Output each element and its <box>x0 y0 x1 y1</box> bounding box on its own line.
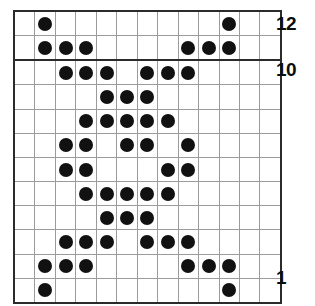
chart-cell-r4-c1[interactable] <box>14 206 35 230</box>
chart-cell-r1-c7[interactable] <box>137 278 157 303</box>
chart-cell-r12-c9[interactable] <box>178 11 198 36</box>
chart-cell-r8-c8[interactable] <box>158 109 178 133</box>
chart-cell-r3-c11[interactable] <box>219 230 239 254</box>
chart-cell-r6-c2[interactable] <box>35 157 55 181</box>
chart-cell-r6-c4[interactable] <box>76 157 96 181</box>
chart-cell-r12-c11[interactable] <box>219 11 239 36</box>
chart-cell-r11-c13[interactable] <box>260 36 281 61</box>
chart-cell-r2-c5[interactable] <box>96 254 116 278</box>
chart-cell-r10-c6[interactable] <box>117 60 137 85</box>
chart-cell-r1-c6[interactable] <box>117 278 137 303</box>
chart-cell-r9-c13[interactable] <box>260 85 281 109</box>
chart-cell-r1-c10[interactable] <box>199 278 219 303</box>
chart-cell-r12-c1[interactable] <box>14 11 35 36</box>
chart-cell-r10-c9[interactable] <box>178 60 198 85</box>
chart-cell-r1-c2[interactable] <box>35 278 55 303</box>
chart-cell-r10-c2[interactable] <box>35 60 55 85</box>
chart-cell-r5-c3[interactable] <box>55 182 75 206</box>
chart-cell-r5-c11[interactable] <box>219 182 239 206</box>
chart-cell-r3-c5[interactable] <box>96 230 116 254</box>
chart-cell-r11-c2[interactable] <box>35 36 55 61</box>
chart-cell-r10-c3[interactable] <box>55 60 75 85</box>
chart-cell-r6-c5[interactable] <box>96 157 116 181</box>
chart-cell-r2-c6[interactable] <box>117 254 137 278</box>
chart-cell-r2-c12[interactable] <box>239 254 259 278</box>
chart-cell-r9-c12[interactable] <box>239 85 259 109</box>
chart-cell-r9-c2[interactable] <box>35 85 55 109</box>
chart-cell-r5-c10[interactable] <box>199 182 219 206</box>
chart-cell-r5-c6[interactable] <box>117 182 137 206</box>
chart-cell-r8-c13[interactable] <box>260 109 281 133</box>
chart-cell-r9-c10[interactable] <box>199 85 219 109</box>
chart-cell-r5-c7[interactable] <box>137 182 157 206</box>
chart-cell-r7-c10[interactable] <box>199 133 219 157</box>
chart-cell-r8-c11[interactable] <box>219 109 239 133</box>
chart-cell-r2-c9[interactable] <box>178 254 198 278</box>
chart-cell-r6-c8[interactable] <box>158 157 178 181</box>
chart-cell-r8-c7[interactable] <box>137 109 157 133</box>
chart-cell-r1-c1[interactable] <box>14 278 35 303</box>
chart-cell-r7-c13[interactable] <box>260 133 281 157</box>
chart-cell-r3-c4[interactable] <box>76 230 96 254</box>
chart-cell-r9-c7[interactable] <box>137 85 157 109</box>
chart-cell-r10-c4[interactable] <box>76 60 96 85</box>
chart-cell-r9-c3[interactable] <box>55 85 75 109</box>
chart-cell-r5-c2[interactable] <box>35 182 55 206</box>
chart-cell-r3-c13[interactable] <box>260 230 281 254</box>
chart-cell-r4-c3[interactable] <box>55 206 75 230</box>
chart-cell-r11-c5[interactable] <box>96 36 116 61</box>
chart-cell-r8-c1[interactable] <box>14 109 35 133</box>
chart-cell-r8-c5[interactable] <box>96 109 116 133</box>
chart-cell-r1-c12[interactable] <box>239 278 259 303</box>
chart-cell-r6-c6[interactable] <box>117 157 137 181</box>
chart-cell-r11-c11[interactable] <box>219 36 239 61</box>
chart-cell-r5-c8[interactable] <box>158 182 178 206</box>
chart-cell-r9-c8[interactable] <box>158 85 178 109</box>
chart-cell-r1-c11[interactable] <box>219 278 239 303</box>
chart-cell-r3-c8[interactable] <box>158 230 178 254</box>
chart-cell-r12-c12[interactable] <box>239 11 259 36</box>
chart-cell-r2-c8[interactable] <box>158 254 178 278</box>
chart-cell-r3-c10[interactable] <box>199 230 219 254</box>
chart-cell-r11-c9[interactable] <box>178 36 198 61</box>
chart-cell-r7-c2[interactable] <box>35 133 55 157</box>
chart-cell-r1-c9[interactable] <box>178 278 198 303</box>
chart-cell-r1-c3[interactable] <box>55 278 75 303</box>
chart-cell-r7-c9[interactable] <box>178 133 198 157</box>
chart-cell-r1-c5[interactable] <box>96 278 116 303</box>
chart-cell-r2-c2[interactable] <box>35 254 55 278</box>
chart-cell-r10-c5[interactable] <box>96 60 116 85</box>
chart-cell-r10-c11[interactable] <box>219 60 239 85</box>
chart-cell-r6-c7[interactable] <box>137 157 157 181</box>
chart-cell-r9-c5[interactable] <box>96 85 116 109</box>
chart-cell-r7-c3[interactable] <box>55 133 75 157</box>
chart-cell-r4-c12[interactable] <box>239 206 259 230</box>
chart-cell-r5-c5[interactable] <box>96 182 116 206</box>
chart-cell-r7-c1[interactable] <box>14 133 35 157</box>
chart-cell-r6-c9[interactable] <box>178 157 198 181</box>
chart-cell-r9-c6[interactable] <box>117 85 137 109</box>
chart-cell-r5-c1[interactable] <box>14 182 35 206</box>
chart-cell-r8-c9[interactable] <box>178 109 198 133</box>
chart-cell-r9-c9[interactable] <box>178 85 198 109</box>
chart-cell-r11-c4[interactable] <box>76 36 96 61</box>
chart-cell-r3-c1[interactable] <box>14 230 35 254</box>
chart-cell-r4-c9[interactable] <box>178 206 198 230</box>
chart-cell-r9-c11[interactable] <box>219 85 239 109</box>
chart-cell-r4-c5[interactable] <box>96 206 116 230</box>
chart-cell-r8-c12[interactable] <box>239 109 259 133</box>
chart-cell-r12-c3[interactable] <box>55 11 75 36</box>
chart-cell-r7-c8[interactable] <box>158 133 178 157</box>
chart-cell-r12-c6[interactable] <box>117 11 137 36</box>
chart-cell-r4-c13[interactable] <box>260 206 281 230</box>
chart-cell-r6-c12[interactable] <box>239 157 259 181</box>
chart-cell-r11-c12[interactable] <box>239 36 259 61</box>
chart-cell-r7-c6[interactable] <box>117 133 137 157</box>
chart-cell-r5-c12[interactable] <box>239 182 259 206</box>
chart-table[interactable] <box>13 10 282 304</box>
chart-cell-r7-c4[interactable] <box>76 133 96 157</box>
chart-cell-r12-c5[interactable] <box>96 11 116 36</box>
chart-cell-r4-c10[interactable] <box>199 206 219 230</box>
chart-cell-r4-c7[interactable] <box>137 206 157 230</box>
chart-cell-r10-c1[interactable] <box>14 60 35 85</box>
